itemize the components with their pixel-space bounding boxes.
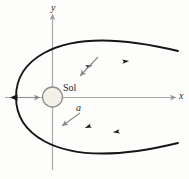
diagram-canvas [0, 0, 189, 179]
orbit-diagram-figure: y x Sol a [0, 0, 189, 179]
y-axis-label: y [51, 3, 55, 13]
a-pointer-annotation [62, 113, 80, 126]
lower-direction-markers [84, 124, 120, 135]
semi-major-axis-label: a [76, 103, 81, 113]
direction-arrow-lower-2 [113, 129, 120, 134]
periapsis-vertex-marker [10, 94, 18, 101]
x-axis-label: x [179, 91, 183, 101]
trajectory-upper-branch [16, 41, 178, 97]
sol-body [43, 87, 63, 107]
direction-arrow-lower-1 [84, 124, 92, 130]
trajectory-lower-branch [16, 97, 178, 153]
radius-pointer-annotation [80, 57, 98, 76]
direction-arrow-upper-2 [122, 59, 129, 64]
sol-label: Sol [63, 83, 76, 93]
